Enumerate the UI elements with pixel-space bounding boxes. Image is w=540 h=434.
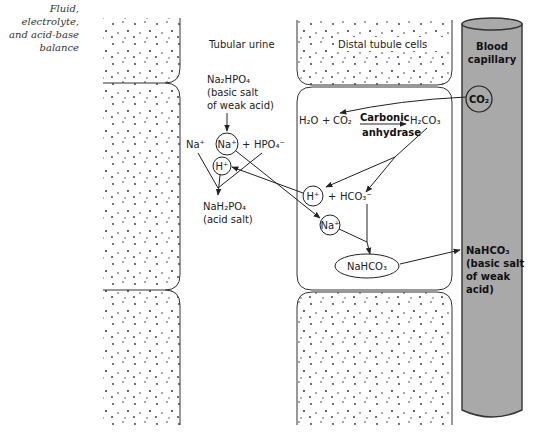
cell-plus: +	[322, 115, 330, 126]
na2hpo4-label: Na₂HPO₄	[207, 74, 250, 85]
capillary-co2: CO₂	[469, 94, 489, 105]
na-plus-circled: Na⁺	[218, 139, 237, 150]
nah2po4-label: NaH₂PO₄	[203, 201, 246, 212]
enzyme-label-1: Carbonic	[360, 112, 410, 123]
capillary-nahco3-desc-1: (basic salt	[466, 258, 524, 269]
na-plus-left: Na⁺	[186, 139, 205, 150]
na2hpo4-desc-1: (basic salt	[207, 87, 258, 98]
h-plus-lumen: H⁺	[216, 161, 229, 172]
capillary-nahco3-desc-3: acid)	[466, 284, 494, 295]
cells-label: Distal tubule cells	[338, 39, 427, 50]
capillary-label-1: Blood	[476, 41, 508, 52]
renal-acid-base-diagram: Blood capillary CO₂ NaHCO₃ (basic salt o…	[0, 0, 540, 434]
cell-plus-2: +	[328, 191, 336, 202]
na-plus-cell: Na⁺	[321, 220, 340, 231]
blood-capillary: Blood capillary CO₂ NaHCO₃ (basic salt o…	[462, 18, 524, 417]
capillary-label-2: capillary	[468, 54, 517, 65]
lumen-plus: +	[242, 139, 250, 150]
h-plus-cell: H⁺	[307, 191, 320, 202]
na2hpo4-desc-2: of weak acid)	[207, 100, 274, 111]
lumen-label: Tubular urine	[208, 39, 275, 50]
h2o-label: H₂O	[299, 115, 319, 126]
co2-label: CO₂	[333, 115, 352, 126]
capillary-nahco3: NaHCO₃	[466, 245, 510, 256]
nahco3-oval-label: NaHCO₃	[347, 261, 387, 272]
h2co3-label: H₂CO₃	[410, 115, 440, 126]
enzyme-label-2: anhydrase	[362, 127, 421, 138]
capillary-nahco3-desc-2: of weak	[466, 271, 510, 282]
nah2po4-desc: (acid salt)	[203, 214, 253, 225]
left-tubule-wall	[103, 18, 180, 425]
hco3-label: HCO₃⁻	[340, 191, 372, 202]
hpo4-label: HPO₄⁻	[254, 139, 285, 150]
